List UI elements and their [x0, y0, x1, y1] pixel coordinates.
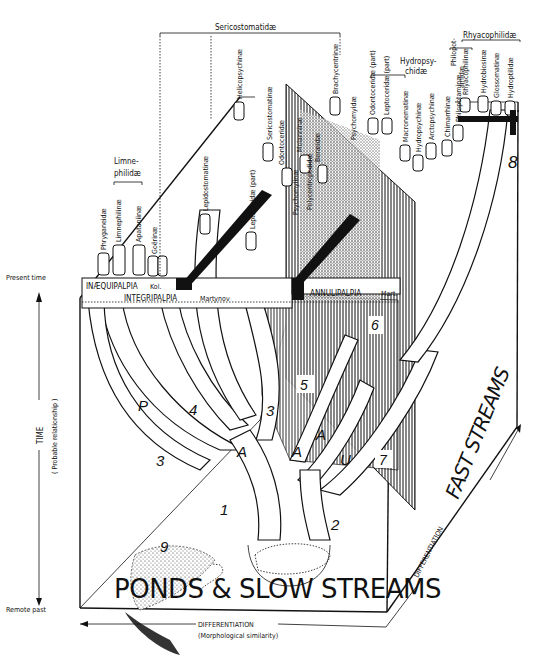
taxon-label: Leptoceridæ (part)	[383, 56, 391, 115]
taxon-label: Arctopsychinæ	[428, 93, 436, 140]
taxon-label: Sericostomatinæ	[266, 86, 274, 140]
taxon-label: Odontoceridæ	[278, 120, 286, 165]
marker-3-center: 3	[266, 402, 275, 419]
marker-7: 7	[379, 452, 388, 468]
taxon-label: Limnephilinæ	[115, 199, 123, 242]
differentiation-bottom-sublabel: (Morphological similarity)	[198, 632, 278, 640]
suborder-annulipalpia-author: Mart.	[381, 290, 397, 298]
taxon-label: Molanninæ	[296, 117, 304, 152]
differentiation-bottom-label: DIFFERENTIATION	[198, 621, 254, 629]
group-label-limnephilidae-1: Limne-	[114, 157, 139, 166]
differentiation-axis-right	[490, 424, 521, 480]
marker-u: U	[340, 451, 351, 468]
taxon-label: Psychomyidæ	[350, 96, 358, 140]
group-label-philopotamidae-1: Philopot-	[450, 38, 458, 66]
taxon-label: Lepidostomatinæ	[202, 156, 210, 211]
marker-3-left: 3	[156, 452, 165, 469]
group-label-hydropsychidae-1: Hydropsy-	[400, 57, 437, 66]
suborder-integripalpia-author: Martynov	[200, 295, 230, 303]
marker-2: 2	[330, 516, 340, 533]
marker-a-left: A	[236, 443, 247, 460]
taxon-label: Beræidæ	[314, 133, 322, 162]
marker-a-center: A	[291, 443, 302, 460]
time-axis-sublabel: ( Probable relationship )	[51, 399, 59, 474]
suborder-inaequipalpia: INÆQUIPALPIA	[86, 282, 138, 291]
taxon-label: Chimarrhinæ	[444, 96, 452, 137]
suborder-integripalpia: INTEGRIPALPIA	[124, 294, 177, 303]
time-axis-top-label: Present time	[6, 274, 46, 282]
taxon-label: Odontoceridæ (part)	[369, 50, 377, 115]
marker-9: 9	[160, 538, 169, 555]
marker-8: 8	[508, 153, 518, 172]
taxon-label: Goërinæ	[151, 227, 159, 254]
taxon-label: Polycentropodidæ	[306, 153, 314, 210]
marker-5: 5	[300, 377, 308, 393]
taxon-label: Helicopsychinæ	[236, 49, 244, 99]
marker-p: P	[138, 397, 148, 414]
time-axis-label: TIME	[36, 426, 45, 445]
habitat-label-fast: FAST STREAMS	[440, 363, 515, 501]
group-label-limnephilidae-2: philidæ	[114, 169, 141, 178]
marker-a-right: A	[315, 426, 326, 443]
phylogeny-block-diagram: INÆQUIPALPIA Kol. INTEGRIPALPIA Martynov…	[0, 0, 542, 670]
taxon-label: Brachycentrinæ	[332, 44, 340, 94]
habitat-label-slow: PONDS & SLOW STREAMS	[114, 574, 441, 604]
marker-1: 1	[220, 501, 228, 518]
taxon-label: Macronematinæ	[402, 91, 410, 142]
group-label-rhyacophilidae: Rhyacophilidæ	[463, 31, 516, 40]
taxon-label: Hydroptilidæ	[507, 57, 515, 98]
group-label-sericostomatidae: Sericostomatidæ	[215, 23, 276, 32]
suborder-inaequipalpia-author: Kol.	[150, 283, 161, 291]
suborder-annulipalpia: ANNULIPALPIA	[310, 289, 361, 298]
taxon-label: Glossomatinæ	[493, 53, 501, 98]
taxon-label: Psychomyiinæ	[292, 169, 300, 215]
taxon-label: Apataniinæ	[135, 206, 143, 242]
taxon-label: Hydrobiosinæ	[480, 49, 488, 93]
taxon-label: Leptoceridæ (part)	[249, 170, 257, 229]
differentiation-right-label: DIFFERENTIATION	[413, 525, 446, 579]
marker-6: 6	[371, 317, 379, 333]
time-axis-bottom-label: Remote past	[6, 606, 46, 614]
taxon-label: Hydropsychinæ	[415, 103, 423, 152]
time-axis	[36, 292, 42, 606]
taxon-label: Phryganeidæ	[100, 208, 108, 250]
group-label-philopotamidae-2: amidæ	[458, 66, 466, 88]
group-label-hydropsychidae-2: chidæ	[405, 67, 427, 76]
marker-4: 4	[189, 401, 197, 418]
